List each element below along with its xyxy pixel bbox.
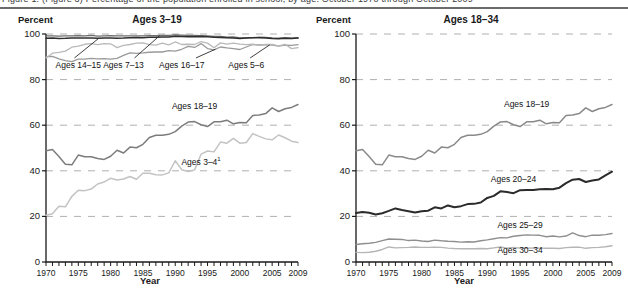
series-label-ages-16-17: Ages 16–17 [159, 60, 204, 70]
series-line-ages-18-19 [46, 104, 298, 164]
chart-figure: Figure 1. (Figure 3) Percentage of the p… [0, 0, 628, 295]
right-x-axis-title: Year [314, 275, 614, 286]
left-plot-area: 0204060801001970197519801985199019952000… [0, 10, 314, 295]
y-tick-label: 0 [322, 256, 350, 267]
figure-caption-text: Figure 1. (Figure 3) Percentage of the p… [2, 0, 473, 4]
y-tick-label: 40 [12, 165, 40, 176]
axis-lines [356, 34, 612, 262]
left-x-axis-title: Year [0, 275, 300, 286]
series-label-ages-25-29: Ages 25–29 [497, 220, 542, 230]
series-label-ages-20-24: Ages 20–24 [491, 174, 536, 184]
y-tick-label: 100 [12, 28, 40, 39]
y-tick-label: 20 [322, 210, 350, 221]
series-line-ages-25-29 [356, 233, 612, 245]
series-label-ages-3-4: Ages 3–41 [181, 156, 220, 167]
series-line-ages-3-4 [46, 134, 298, 216]
series-label-ages-14-15: Ages 14–15 [56, 60, 101, 70]
series-label-ages-5-6: Ages 5–6 [228, 60, 264, 70]
y-tick-label: 80 [322, 74, 350, 85]
figure-caption-strip: Figure 1. (Figure 3) Percentage of the p… [0, 0, 628, 10]
footnote-marker: 1 [217, 156, 220, 162]
series-line-ages-30-34 [356, 246, 612, 253]
series-label-ages-7-13: Ages 7–13 [103, 60, 144, 70]
series-line-ages-5-6 [46, 42, 298, 58]
y-tick-label: 80 [12, 74, 40, 85]
y-tick-label: 60 [12, 119, 40, 130]
y-tick-label: 60 [322, 119, 350, 130]
right-plot-area: 0204060801001970197519801985199019952000… [314, 10, 628, 295]
series-line-ages-20-24 [356, 172, 612, 215]
y-tick-label: 0 [12, 256, 40, 267]
series-line-ages-18-19 [356, 104, 612, 164]
series-label-ages-30-34: Ages 30–34 [497, 245, 542, 255]
panel-ages-3-19: Percent Ages 3–19 0204060801001970197519… [0, 10, 314, 295]
chart-svg [314, 10, 628, 295]
panel-ages-18-34: Percent Ages 18–34 020406080100197019751… [314, 10, 628, 295]
y-tick-label: 40 [322, 165, 350, 176]
y-tick-label: 100 [322, 28, 350, 39]
series-label-ages-18-19: Ages 18–19 [504, 99, 549, 109]
chart-svg [0, 10, 314, 295]
series-label-ages-18-19: Ages 18–19 [172, 101, 217, 111]
caption-divider [0, 7, 628, 9]
y-tick-label: 20 [12, 210, 40, 221]
series-line-ages-16-17 [46, 44, 298, 62]
